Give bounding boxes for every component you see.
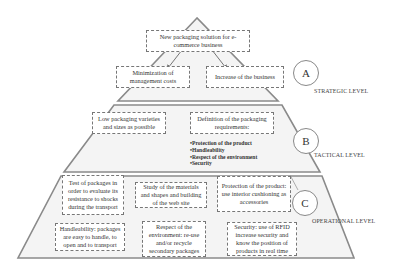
tactical-level-label: TACTICAL LEVEL bbox=[314, 152, 365, 158]
level-c-marker: C bbox=[292, 190, 318, 216]
requirement-item: Security bbox=[190, 160, 257, 167]
minimization-costs-box: Minimization of management costs bbox=[116, 66, 190, 88]
test-packages-box: Test of packages in order to evaluate it… bbox=[62, 175, 124, 215]
requirement-item: Protection of the product bbox=[190, 140, 257, 147]
study-materials-box: Study of the materials and shapes and bu… bbox=[135, 182, 207, 208]
requirements-list: Protection of the product Handleability … bbox=[190, 140, 257, 167]
goal-box: New packaging solution for e-commerce bu… bbox=[146, 30, 250, 52]
handleability-box: Handleability: packages are easy to hand… bbox=[55, 223, 125, 251]
strategic-level-label: STRATEGIC LEVEL bbox=[314, 88, 368, 94]
increase-business-box: Increase of the business bbox=[206, 66, 284, 88]
requirement-item: Respect of the environment bbox=[190, 154, 257, 161]
level-a-marker: A bbox=[293, 60, 319, 86]
level-b-marker: B bbox=[293, 128, 319, 154]
requirement-item: Handleability bbox=[190, 147, 257, 154]
operational-level-label: OPERATIONAL LEVEL bbox=[312, 218, 375, 224]
respect-environment-box: Respect of the environment: re-use and/o… bbox=[142, 221, 206, 257]
security-box: Security: use of RFID increase security … bbox=[227, 222, 297, 256]
low-varieties-box: Low packaging varieties and sizes as pos… bbox=[92, 112, 166, 134]
protection-product-box: Protection of the product: use interior … bbox=[217, 176, 291, 212]
requirements-box: Definition of the packaging requirements… bbox=[190, 112, 274, 134]
